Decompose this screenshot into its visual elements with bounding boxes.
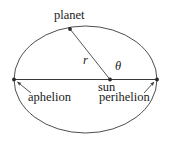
radius-label: r — [83, 54, 88, 67]
planet-point-marker — [68, 27, 72, 31]
perihelion-label: perihelion — [99, 91, 150, 104]
aphelion-point-marker — [12, 78, 16, 82]
angle-theta-label: θ — [115, 60, 121, 73]
radius-line — [70, 29, 110, 80]
planet-label: planet — [54, 9, 85, 22]
perihelion-point-marker — [155, 78, 159, 82]
aphelion-label: aphelion — [28, 91, 71, 104]
orbit-diagram: planet r θ sun aphelion perihelion — [0, 0, 169, 141]
